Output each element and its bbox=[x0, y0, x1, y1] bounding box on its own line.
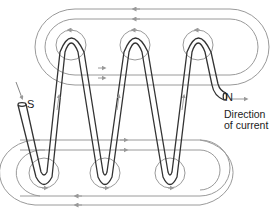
south-pole-label: S bbox=[27, 98, 34, 110]
direction-of-current-label: Direction of current bbox=[224, 109, 268, 131]
direction-label-line2: of current bbox=[224, 120, 268, 131]
north-pole-label: N bbox=[225, 91, 233, 103]
south-pointer-arrow bbox=[16, 82, 22, 98]
